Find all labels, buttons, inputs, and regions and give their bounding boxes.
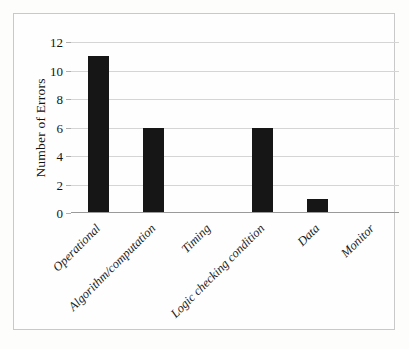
y-tick-label: 6 [37, 121, 63, 134]
gridline [71, 71, 399, 72]
gridline [71, 185, 399, 186]
bar [307, 199, 328, 213]
y-tick-label: 0 [37, 207, 63, 220]
y-tick-mark [66, 42, 71, 43]
bar [88, 56, 109, 213]
y-tick-mark [66, 185, 71, 186]
y-tick-mark [66, 213, 71, 214]
x-tick-label: Data [295, 222, 322, 249]
gridline [71, 42, 399, 43]
figure-canvas: Number of Errors 024681012 OperationalAl… [0, 0, 409, 349]
y-tick-mark [66, 71, 71, 72]
bar [252, 128, 273, 214]
y-tick-mark [66, 156, 71, 157]
x-tick-label: Operational [51, 222, 103, 274]
y-tick-label: 10 [37, 64, 63, 77]
x-tick-label: Monitor [339, 222, 377, 260]
bar [143, 128, 164, 214]
y-tick-mark [66, 99, 71, 100]
y-tick-label: 2 [37, 178, 63, 191]
x-axis-line [71, 212, 399, 213]
gridline [71, 99, 399, 100]
gridline [71, 156, 399, 157]
plot-area [71, 42, 399, 213]
x-tick-label: Timing [179, 222, 212, 255]
y-tick-mark [66, 128, 71, 129]
y-tick-label: 8 [37, 93, 63, 106]
gridline [71, 128, 399, 129]
x-tick-label: Logic checking condition [169, 222, 267, 320]
y-tick-label: 12 [37, 36, 63, 49]
x-tick-labels: OperationalAlgorithm/computationTimingLo… [71, 216, 399, 336]
y-tick-label: 4 [37, 150, 63, 163]
chart-frame: Number of Errors 024681012 OperationalAl… [13, 13, 395, 330]
